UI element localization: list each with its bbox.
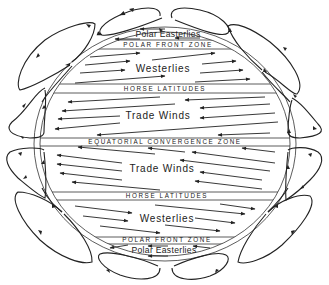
cell-mid-left-upper: [9, 88, 46, 138]
cell-north-upper-left: [18, 23, 95, 90]
cell-mid-left-lower: [7, 148, 46, 198]
label-horse-latitudes-south: HORSE LATITUDES: [126, 192, 208, 199]
label-trade-winds-south: Trade Winds: [129, 163, 194, 174]
label-westerlies-south: Westerlies: [140, 213, 195, 224]
label-westerlies-north: Westerlies: [136, 63, 191, 74]
label-equatorial-convergence-zone: EQUATORIAL CONVERGENCE ZONE: [88, 138, 241, 146]
label-polar-front-zone-north: POLAR FRONT ZONE: [123, 41, 213, 48]
atmospheric-circulation-diagram: Polar Easterlies POLAR FRONT ZONE Wester…: [0, 0, 329, 285]
label-horse-latitudes-north: HORSE LATITUDES: [124, 85, 206, 92]
label-polar-front-zone-south: POLAR FRONT ZONE: [122, 236, 212, 243]
cell-south-lower-left: [15, 192, 92, 263]
cell-south-polar-right: [172, 253, 228, 279]
cell-mid-right-lower: [286, 148, 322, 200]
label-trade-winds-north: Trade Winds: [125, 110, 190, 121]
label-polar-easterlies-south: Polar Easterlies: [132, 245, 197, 255]
label-polar-easterlies-north: Polar Easterlies: [136, 29, 201, 39]
